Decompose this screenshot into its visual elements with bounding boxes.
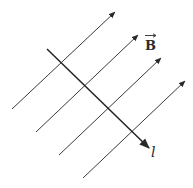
field-line-2 (36, 35, 138, 132)
current-label-l: l (151, 144, 155, 160)
magnetic-field-diagram: B l (0, 0, 193, 188)
field-label-group: B (145, 34, 156, 53)
field-label-b: B (145, 38, 156, 53)
field-line-3 (59, 58, 161, 155)
field-line-1 (12, 12, 115, 109)
field-line-4 (83, 81, 185, 178)
current-wire (47, 49, 149, 148)
field-lines-group (12, 12, 185, 178)
diagram-canvas: B l (0, 0, 193, 188)
